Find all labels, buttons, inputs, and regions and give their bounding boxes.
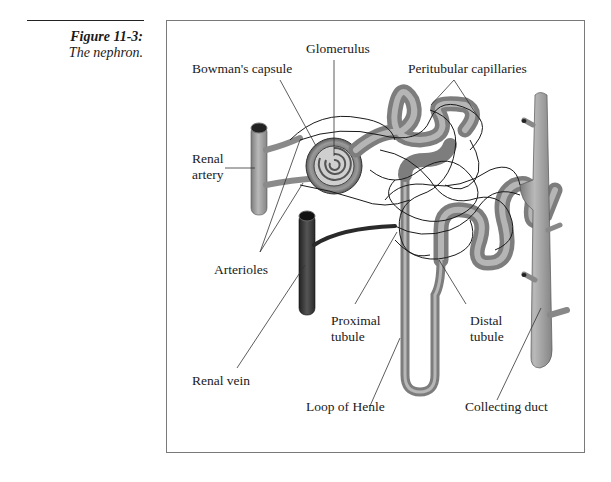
label-proximal-tubule: Proximal tubule: [331, 313, 381, 345]
loop-of-henle: [405, 145, 450, 392]
renal-vein: [299, 211, 395, 315]
label-renal-vein: Renal vein: [192, 373, 250, 389]
label-bowmans-capsule: Bowman's capsule: [192, 61, 292, 77]
label-collecting-duct: Collecting duct: [465, 399, 548, 415]
label-arterioles: Arterioles: [214, 262, 268, 278]
label-glomerulus: Glomerulus: [306, 41, 370, 57]
label-renal-artery: Renal artery: [192, 151, 224, 183]
collecting-duct: [520, 93, 567, 369]
leader-proximal-tubule: [355, 232, 397, 304]
label-distal-tubule: Distal tubule: [470, 313, 504, 345]
leader-renal-vein: [237, 265, 305, 368]
leader-loop-of-henle: [370, 338, 400, 406]
leader-lines: [225, 60, 541, 406]
label-loop-of-henle: Loop of Henle: [306, 399, 385, 415]
label-peritubular-capillaries: Peritubular capillaries: [408, 61, 527, 77]
